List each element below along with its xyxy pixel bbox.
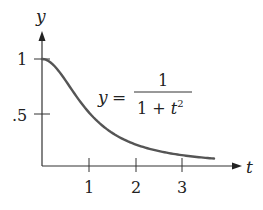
equation-equals: = [112,87,126,107]
curve-line [42,59,214,159]
y-axis-label: y [35,6,46,26]
equation-denominator-prefix: 1 + [137,99,171,118]
equation-denominator: 1 + t2 [137,98,184,118]
equation-denominator-exp: 2 [177,98,183,109]
x-tick-label-1: 1 [84,178,94,197]
x-tick-label-2: 2 [131,178,141,197]
x-tick-label-3: 3 [177,178,187,197]
x-axis-label: t [246,157,253,177]
equation-lhs: y [97,87,108,107]
x-axis-arrow-icon [232,163,242,170]
y-tick-label-1: 1 [17,50,27,69]
y-tick-label-half: .5 [12,106,27,125]
y-axis-arrow-icon [39,31,46,41]
chart: y t 1 .5 1 2 3 y = 1 1 + t2 [0,0,263,210]
equation-numerator: 1 [158,71,168,90]
